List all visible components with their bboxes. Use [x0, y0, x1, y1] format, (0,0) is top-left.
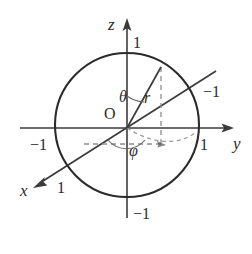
- figure-root: z 1 −1 y 1 −1 x 1 −1: [0, 0, 252, 254]
- y-positive-tick-label: 1: [200, 136, 208, 153]
- x-axis-label: x: [19, 181, 28, 200]
- origin-label: O: [104, 105, 116, 122]
- y-axis-label: y: [231, 134, 241, 153]
- radius-vector-group: r: [127, 67, 161, 128]
- spherical-coordinate-diagram: z 1 −1 y 1 −1 x 1 −1: [0, 0, 252, 254]
- x-positive-tick-label: 1: [57, 179, 65, 196]
- azimuth-angle-label: φ: [129, 142, 138, 160]
- projection-guides-group: [84, 67, 196, 148]
- x-axis-line: [43, 71, 216, 181]
- y-negative-tick-label: −1: [30, 136, 47, 153]
- z-negative-tick-label: −1: [133, 205, 150, 222]
- polar-angle-label: θ: [119, 88, 127, 105]
- z-positive-tick-label: 1: [133, 34, 141, 51]
- x-negative-tick-label: −1: [203, 83, 220, 100]
- z-axis-label: z: [107, 15, 115, 34]
- x-axis-arrowhead: [33, 177, 47, 188]
- radius-label: r: [144, 89, 151, 106]
